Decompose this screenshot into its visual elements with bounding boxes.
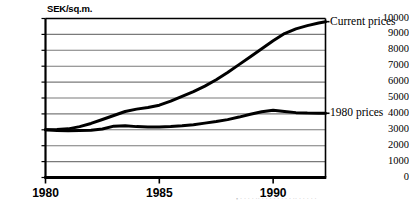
y-axis-tick-label: 8000 [367,44,409,54]
x-axis-tick-label: 1985 [129,186,189,200]
axis-ticks [42,19,274,184]
series-label-current-prices: Current prices [330,15,395,27]
series-label-1980-prices: 1980 prices [330,106,383,118]
plot-area [0,0,409,208]
y-axis-tick-label: 6000 [367,76,409,86]
y-axis-tick-label: 5000 [367,92,409,102]
y-axis-tick-label: 7000 [367,60,409,70]
y-axis-tick-label: 1000 [367,156,409,166]
footnote-text: • · · · · ·· · · · · · · · · ·· · · · · … [236,196,409,207]
y-axis-tick-label: 2000 [367,140,409,150]
y-axis-tick-label: 3000 [367,124,409,134]
series-line [46,110,326,131]
chart-container: SEK/sq.m. 100009000800070006000500040003… [0,0,409,208]
x-axis-tick-label: 1980 [16,186,76,200]
grid-lines [46,34,326,161]
y-axis-tick-label: 0 [367,172,409,182]
y-axis-tick-label: 9000 [367,28,409,38]
